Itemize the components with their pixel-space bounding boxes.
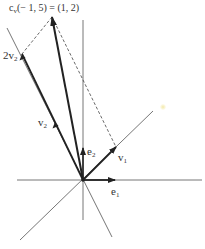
label-2v2: 2v2 [3, 50, 18, 63]
origin-point [81, 178, 85, 182]
coordinate-diagram: cv(− 1, 5) = (1, 2) 2v2 v2 e2 v1 e1 [0, 0, 205, 249]
title-text: (− 1, 5) = (1, 2) [17, 2, 79, 13]
label-e1-sub: 1 [116, 191, 120, 199]
diagram-canvas [0, 0, 205, 249]
dashed-line-to-2v2 [22, 17, 52, 54]
label-e1: e1 [111, 186, 119, 199]
result-vector [52, 17, 83, 180]
label-v1-sub: 1 [124, 157, 128, 165]
label-2v2-main: 2v [3, 49, 14, 61]
stray-mark [160, 104, 166, 110]
label-v2: v2 [38, 117, 47, 130]
figure-title: cv(− 1, 5) = (1, 2) [9, 3, 79, 15]
label-e2-sub: 2 [92, 151, 96, 159]
dashed-line-to-v1 [52, 17, 116, 147]
label-e2: e2 [87, 146, 95, 159]
label-v2-sub: 2 [44, 122, 48, 130]
two-v2-vector [22, 54, 83, 180]
label-v1: v1 [118, 152, 127, 165]
label-2v2-sub: 2 [14, 55, 18, 63]
